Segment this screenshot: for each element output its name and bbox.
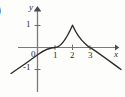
part-label: )	[0, 4, 1, 16]
y-tick-label-1: 1	[26, 20, 31, 29]
x-tick-label-0: 0	[31, 50, 36, 59]
y-tick-label-neg1: -1	[23, 63, 31, 72]
plot-canvas	[0, 0, 125, 97]
x-tick-label-2: 2	[70, 51, 75, 60]
y-axis-label: y	[29, 3, 33, 12]
x-axis-label: x	[114, 50, 118, 59]
x-tick-label-1: 1	[53, 51, 58, 60]
graph-figure: ) y x 1 -1 0 1 2 3	[0, 0, 125, 97]
x-tick-label-3: 3	[88, 51, 93, 60]
